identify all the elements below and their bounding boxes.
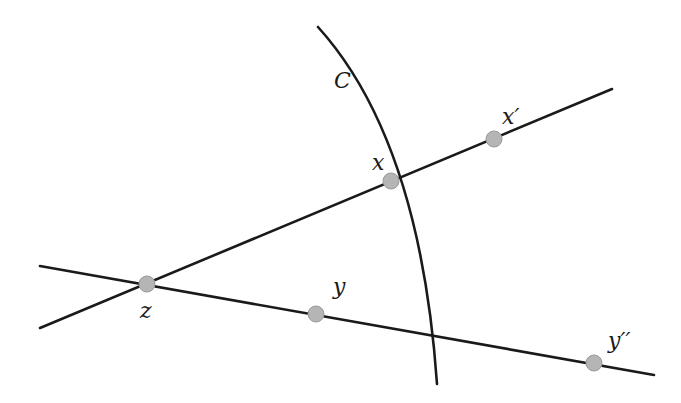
points-group: zxx′yy′′ [139,104,630,371]
curve-c-label: C [334,68,351,93]
point-x [383,173,399,189]
point-y_dprime-label: y′′ [607,328,630,353]
point-y_dprime [586,355,602,371]
point-y [308,306,324,322]
point-z [139,276,155,292]
point-x_prime-label: x′ [502,104,519,129]
point-y-label: y [332,274,346,299]
diagram-canvas: C zxx′yy′′ [0,0,681,403]
line-zy [40,266,654,375]
point-z-label: z [139,298,152,323]
point-x-label: x [372,150,385,175]
line-zx [40,89,612,328]
point-x_prime [486,131,502,147]
